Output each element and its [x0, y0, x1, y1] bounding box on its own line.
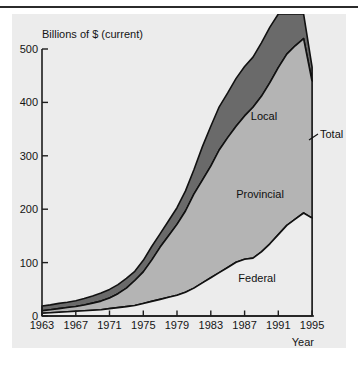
area-chart-svg: 0 100 200 300 400 500 — [12, 14, 346, 348]
x-tick-label-1991: 1991 — [266, 319, 290, 331]
x-tick-label-1979: 1979 — [165, 319, 189, 331]
x-axis-title: Year — [292, 336, 315, 348]
x-tick-label-1971: 1971 — [97, 319, 121, 331]
x-tick-label-1995: 1995 — [300, 319, 324, 331]
x-axis-tick-labels: 1963 1967 1971 1975 1979 1983 1987 1991 … — [30, 319, 325, 331]
x-tick-label-1963: 1963 — [30, 319, 54, 331]
x-tick-label-1975: 1975 — [131, 319, 155, 331]
x-tick-label-1987: 1987 — [232, 319, 256, 331]
y-tick-label-400: 400 — [20, 96, 38, 108]
y-axis-title: Billions of $ (current) — [42, 28, 143, 40]
y-tick-label-500: 500 — [20, 43, 38, 55]
chart-canvas: 0 100 200 300 400 500 — [12, 14, 346, 348]
top-divider-rule — [0, 6, 358, 8]
chart-panel: 0 100 200 300 400 500 — [12, 14, 346, 348]
x-tick-label-1983: 1983 — [199, 319, 223, 331]
y-tick-label-200: 200 — [20, 203, 38, 215]
figure-root: 0 100 200 300 400 500 — [0, 0, 358, 368]
series-label-local: Local — [251, 110, 277, 122]
x-tick-label-1967: 1967 — [64, 319, 88, 331]
series-label-federal: Federal — [238, 272, 275, 284]
y-tick-label-100: 100 — [20, 257, 38, 269]
series-label-provincial: Provincial — [236, 188, 284, 200]
y-tick-label-300: 300 — [20, 150, 38, 162]
series-label-total: Total — [320, 128, 343, 140]
